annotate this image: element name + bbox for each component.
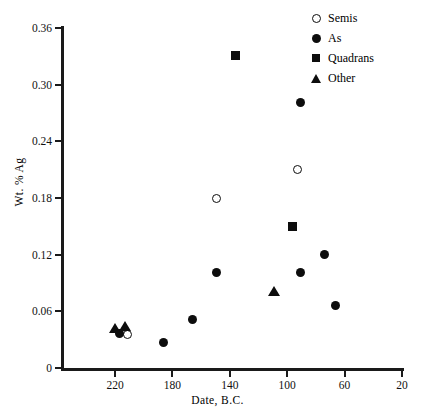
data-point-as (296, 98, 305, 107)
data-point-as (331, 301, 340, 310)
legend-label: Quadrans (325, 51, 374, 66)
legend-marker-triangle-filled-icon (307, 74, 325, 83)
data-point-as (159, 338, 168, 347)
data-point-quadrans (288, 222, 297, 231)
legend-marker-circle-open-icon (307, 14, 325, 23)
legend-marker-circle-filled-icon (307, 34, 325, 43)
legend-item-semis[interactable]: Semis (307, 8, 432, 28)
data-point-as (188, 315, 197, 324)
legend-item-as[interactable]: As (307, 28, 432, 48)
legend-label: Semis (325, 11, 357, 26)
legend-item-other[interactable]: Other (307, 68, 432, 88)
data-point-other (119, 321, 131, 331)
scatter-plot-figure: 00.060.120.180.240.300.36 22018014010060… (0, 0, 435, 420)
legend-label: As (325, 31, 341, 46)
legend-marker-square-filled-icon (307, 54, 325, 62)
data-point-semis (212, 194, 221, 203)
data-point-as (320, 250, 329, 259)
legend-item-quadrans[interactable]: Quadrans (307, 48, 432, 68)
data-point-as (296, 268, 305, 277)
data-point-other (268, 286, 280, 296)
data-point-quadrans (231, 51, 240, 60)
data-point-semis (293, 165, 302, 174)
legend-label: Other (325, 71, 355, 86)
data-point-as (212, 268, 221, 277)
legend: SemisAsQuadransOther (307, 8, 432, 88)
